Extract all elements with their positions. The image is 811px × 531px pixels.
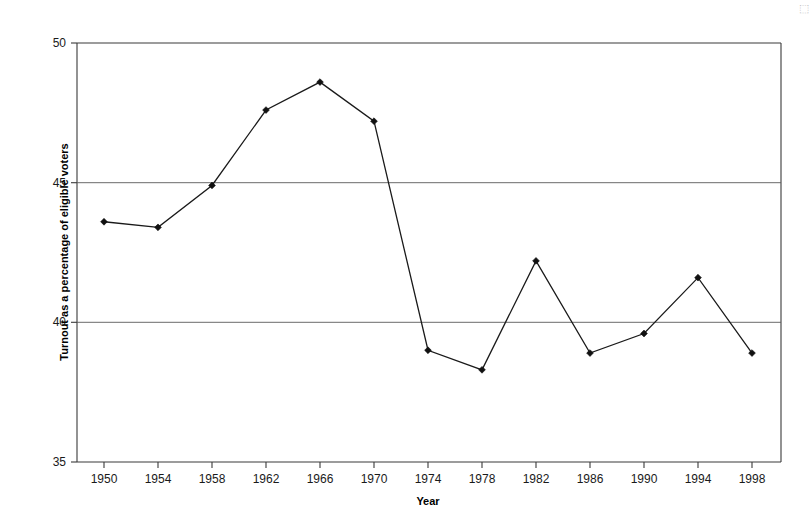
- chart-page: ⬚ 50: [0, 0, 811, 531]
- y-axis-title: Turnout as a percentage of eligible vote…: [58, 143, 70, 360]
- x-tick-label-1998: 1998: [739, 472, 766, 486]
- data-point-1982: [533, 257, 540, 264]
- x-tick-label-1970: 1970: [361, 472, 388, 486]
- plot-frame: [77, 43, 781, 462]
- x-tick-label-1986: 1986: [577, 472, 604, 486]
- series-line-turnout: [104, 82, 752, 370]
- x-tick-label-1978: 1978: [469, 472, 496, 486]
- data-point-1978: [479, 366, 486, 373]
- data-point-1950: [101, 218, 108, 225]
- x-tick-label-1954: 1954: [145, 472, 172, 486]
- x-tick-label-1974: 1974: [415, 472, 442, 486]
- data-point-1974: [425, 347, 432, 354]
- chart-svg: 50 45 40 35 Turnout as a percentage of e…: [0, 0, 811, 531]
- series-markers-turnout: [101, 79, 756, 374]
- x-tick-label-1966: 1966: [307, 472, 334, 486]
- x-tick-label-1962: 1962: [253, 472, 280, 486]
- data-point-1986: [587, 350, 594, 357]
- x-tick-label-1950: 1950: [91, 472, 118, 486]
- x-tick-label-1982: 1982: [523, 472, 550, 486]
- x-axis-ticks: [104, 462, 752, 468]
- x-tick-label-1958: 1958: [199, 472, 226, 486]
- x-axis-tick-labels: 1950 1954 1958 1962 1966 1970 1974 1978 …: [91, 472, 766, 486]
- x-tick-label-1994: 1994: [685, 472, 712, 486]
- series-turnout: [101, 79, 756, 374]
- y-tick-label-50: 50: [53, 36, 67, 50]
- x-tick-label-1990: 1990: [631, 472, 658, 486]
- x-axis-title: Year: [416, 495, 440, 507]
- y-tick-label-35: 35: [53, 455, 67, 469]
- line-chart: 50 45 40 35 Turnout as a percentage of e…: [0, 0, 811, 531]
- y-axis-ticks: [71, 43, 77, 462]
